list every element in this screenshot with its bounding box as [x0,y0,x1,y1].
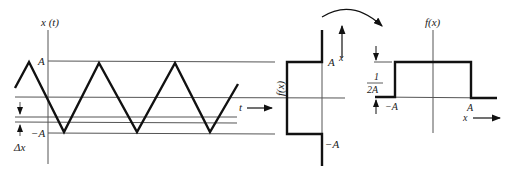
dx-label: Δx [13,141,25,153]
level-A-line [48,61,275,62]
level-negA-line [48,133,275,134]
t-axis [15,97,345,98]
right-x-label: x [462,112,468,123]
A-label: A [37,55,45,67]
height-numerator: 1 [374,71,379,82]
distribution-rotated-panel: f(x) A −A x [274,9,382,166]
rotation-arrow [322,9,382,26]
middle-negA-label: −A [325,138,339,150]
time-domain-panel: x (t) A −A Δx t [13,16,345,164]
fx-rotated-label: f(x) [274,80,287,96]
t-label: t [239,101,243,113]
middle-x-label: x [338,52,344,63]
pdf-panel: 1 2A f(x) −A A x [367,16,500,133]
middle-A-label: A [327,56,335,68]
xt-label: x (t) [40,16,59,29]
diagram-canvas: x (t) A −A Δx t f(x) A −A x 1 2A f(x) −A… [0,0,511,175]
uniform-pdf-curve [375,62,497,98]
height-denominator: 2A [367,84,379,95]
right-fx-label: f(x) [425,16,441,29]
negA-label: −A [31,127,45,139]
right-negA-label: −A [385,101,399,112]
